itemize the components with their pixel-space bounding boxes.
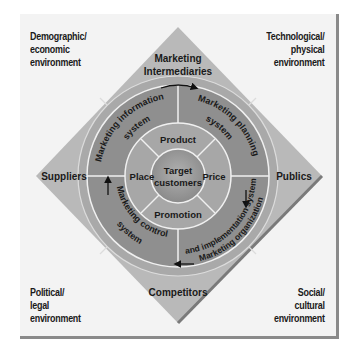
actor-suppliers: Suppliers bbox=[41, 171, 87, 182]
center-line2: customers bbox=[154, 177, 202, 188]
target-customers-circle bbox=[151, 149, 205, 203]
actor-publics: Publics bbox=[276, 171, 312, 182]
marketing-environment-diagram: Marketing Intermediaries Suppliers Publi… bbox=[0, 0, 355, 357]
actor-intermediaries-line2: Intermediaries bbox=[144, 66, 213, 77]
mix-price: Price bbox=[202, 171, 225, 182]
center-line1: Target bbox=[164, 165, 193, 176]
actor-competitors: Competitors bbox=[149, 287, 208, 298]
mix-promotion: Promotion bbox=[154, 209, 202, 220]
mix-product: Product bbox=[160, 134, 197, 145]
actor-intermediaries-line1: Marketing bbox=[154, 53, 201, 64]
mix-place: Place bbox=[130, 171, 155, 182]
